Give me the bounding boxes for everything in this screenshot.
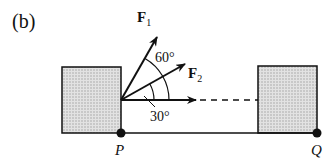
panel-label: (b): [12, 10, 35, 33]
point-p-dot: [117, 129, 126, 138]
left-block: [62, 67, 121, 133]
force-f1-label: F1: [137, 9, 151, 28]
point-q-label: Q: [311, 142, 322, 158]
point-q-dot: [313, 129, 322, 138]
force-f2-label: F2: [188, 65, 202, 84]
point-p-label: P: [114, 142, 124, 158]
angle-30-label: 30°: [150, 109, 170, 124]
force-diagram: (b) F1 F2 60° 30° P Q: [0, 0, 334, 165]
right-block: [258, 66, 317, 133]
angle-60-label: 60°: [155, 50, 175, 65]
angle-arc-30: [150, 84, 154, 101]
